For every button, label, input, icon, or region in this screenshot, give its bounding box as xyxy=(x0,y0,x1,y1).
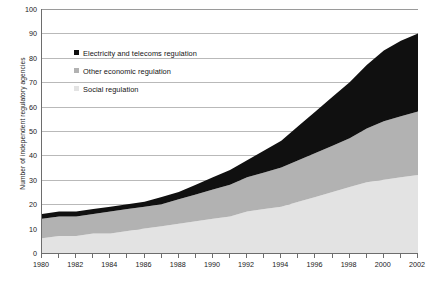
x-tickmark-1986 xyxy=(144,254,145,258)
x-tickmark-1992 xyxy=(246,254,247,258)
y-tick-70: 70 xyxy=(3,78,37,87)
y-tick-10: 10 xyxy=(3,225,37,234)
x-tickmark-2000 xyxy=(383,254,384,258)
legend-label-other-economic: Other economic regulation xyxy=(83,67,171,76)
chart-legend: Electricity and telecoms regulation Othe… xyxy=(74,42,197,96)
y-tick-0: 0 xyxy=(3,249,37,258)
x-tick-2002: 2002 xyxy=(397,260,433,269)
x-tickmark-1993 xyxy=(263,254,264,258)
x-tickmark-1988 xyxy=(178,254,179,258)
x-tickmark-2001 xyxy=(400,254,401,258)
x-tickmark-1994 xyxy=(280,254,281,258)
y-tick-30: 30 xyxy=(3,176,37,185)
figure-caption xyxy=(20,281,420,288)
x-tickmark-1991 xyxy=(229,254,230,258)
y-tick-60: 60 xyxy=(3,103,37,112)
legend-swatch-electricity-and-telecoms xyxy=(74,50,79,55)
legend-item-other-economic: Other economic regulation xyxy=(74,60,197,78)
y-tick-50: 50 xyxy=(3,127,37,136)
y-tick-80: 80 xyxy=(3,54,37,63)
x-tickmark-1982 xyxy=(75,254,76,258)
x-tickmark-1998 xyxy=(349,254,350,258)
x-tickmark-1984 xyxy=(109,254,110,258)
x-tickmark-1980 xyxy=(41,254,42,258)
legend-swatch-other-economic xyxy=(74,68,79,73)
x-tickmark-1987 xyxy=(161,254,162,258)
x-tickmark-1981 xyxy=(58,254,59,258)
legend-label-social: Social regulation xyxy=(83,85,139,94)
x-axis-tick-labels: 1980198219841986198819901992199419961998… xyxy=(41,254,418,280)
y-axis-tick-labels: 0102030405060708090100 xyxy=(0,0,37,262)
x-tickmark-1995 xyxy=(297,254,298,258)
legend-swatch-social xyxy=(74,86,79,91)
x-tickmark-2002 xyxy=(417,254,418,258)
chart-figure: Number of independent regulatory agencie… xyxy=(0,0,433,288)
y-tick-40: 40 xyxy=(3,151,37,160)
x-tickmark-1983 xyxy=(92,254,93,258)
x-tickmark-1989 xyxy=(195,254,196,258)
x-tickmark-1997 xyxy=(332,254,333,258)
x-tickmark-1999 xyxy=(366,254,367,258)
legend-item-social: Social regulation xyxy=(74,78,197,96)
y-tick-90: 90 xyxy=(3,29,37,38)
x-tickmark-1996 xyxy=(314,254,315,258)
x-tickmark-1985 xyxy=(126,254,127,258)
legend-label-electricity-and-telecoms: Electricity and telecoms regulation xyxy=(83,49,197,58)
legend-item-electricity-and-telecoms: Electricity and telecoms regulation xyxy=(74,42,197,60)
y-tick-100: 100 xyxy=(3,5,37,14)
y-tick-20: 20 xyxy=(3,200,37,209)
x-tickmark-1990 xyxy=(212,254,213,258)
